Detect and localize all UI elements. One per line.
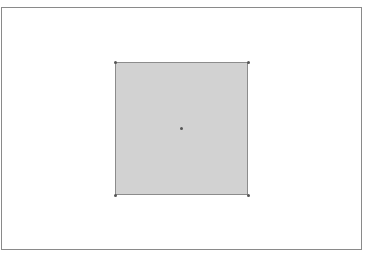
vertex-top-right-handle[interactable]: [247, 61, 250, 64]
center-point-handle[interactable]: [180, 127, 183, 130]
vertex-bottom-left-handle[interactable]: [114, 194, 117, 197]
vertex-top-left-handle[interactable]: [114, 61, 117, 64]
vertex-bottom-right-handle[interactable]: [247, 194, 250, 197]
